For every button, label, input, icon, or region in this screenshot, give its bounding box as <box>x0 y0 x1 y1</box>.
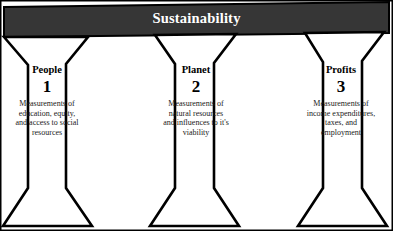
pillar-planet-description: Measurements of natural resources and in… <box>163 99 229 137</box>
pillar-people-description: Measurements of education, equity, and a… <box>14 99 80 137</box>
pillar-planet-name: Planet <box>163 64 229 76</box>
sustainability-pillars-diagram: Sustainability People 1 Measurements of … <box>0 0 393 231</box>
pillar-planet-text-block: Planet 2 Measurements of natural resourc… <box>163 64 229 137</box>
pillar-people-text-block: People 1 Measurements of education, equi… <box>14 64 80 137</box>
pillar-people-name: People <box>14 64 80 76</box>
pillar-profits-text-block: Profits 3 Measurements of income expendi… <box>306 64 376 137</box>
pillar-profits-number: 3 <box>306 77 376 97</box>
pillar-profits-name: Profits <box>306 64 376 76</box>
pillar-profits-description: Measurements of income expenditures, tax… <box>306 99 376 137</box>
pillar-people-number: 1 <box>14 77 80 97</box>
beam-title: Sustainability <box>0 8 393 28</box>
pillar-planet-number: 2 <box>163 77 229 97</box>
